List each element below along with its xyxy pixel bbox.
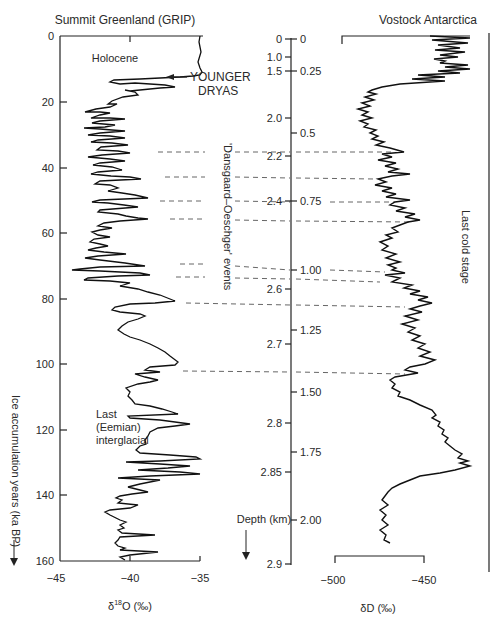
dansgaard-oeschger-label: 'Dansgaard–Oeschger' events [222, 143, 234, 291]
grip-title: Summit Greenland (GRIP) [55, 13, 196, 27]
svg-text:2.85: 2.85 [261, 466, 282, 478]
svg-text:1.25: 1.25 [300, 324, 321, 336]
svg-text:−450: −450 [412, 574, 437, 586]
grip-y-tick-labels: 0 20 40 60 80 100 120 140 160 [36, 30, 54, 567]
svg-text:1.50: 1.50 [300, 386, 321, 398]
svg-text:120: 120 [36, 424, 54, 436]
depth-label: Depth (km) [237, 513, 291, 525]
younger-dryas-label-line2: DRYAS [198, 84, 238, 98]
vostok-title: Vostock Antarctica [379, 13, 477, 27]
svg-text:140: 140 [36, 489, 54, 501]
svg-text:1.75: 1.75 [300, 446, 321, 458]
svg-text:80: 80 [42, 293, 54, 305]
grip-x-tick-labels: −45 −40 −35 [47, 572, 210, 584]
svg-text:2.00: 2.00 [300, 514, 321, 526]
svg-text:2.4: 2.4 [267, 195, 282, 207]
svg-text:0.75: 0.75 [300, 195, 321, 207]
svg-text:−40: −40 [121, 572, 140, 584]
grip-d18o-curve [72, 36, 202, 560]
svg-text:0: 0 [300, 33, 306, 45]
eemian-label-line1: Last [96, 408, 117, 420]
svg-text:0: 0 [48, 30, 54, 42]
svg-text:2.2: 2.2 [267, 150, 282, 162]
holocene-label: Holocene [92, 52, 138, 64]
svg-text:2.9: 2.9 [267, 558, 282, 570]
svg-text:100: 100 [36, 358, 54, 370]
svg-text:−45: −45 [47, 572, 66, 584]
svg-text:0: 0 [276, 33, 282, 45]
eemian-label-line3: interglacial [96, 434, 149, 446]
svg-text:2.7: 2.7 [267, 338, 282, 350]
svg-text:1.0: 1.0 [267, 51, 282, 63]
svg-text:1.5: 1.5 [267, 65, 282, 77]
svg-text:2.8: 2.8 [267, 417, 282, 429]
svg-text:40: 40 [42, 162, 54, 174]
svg-text:0.25: 0.25 [300, 65, 321, 77]
depth-axis [285, 38, 297, 565]
svg-text:−500: −500 [321, 574, 346, 586]
ice-core-figure: Summit Greenland (GRIP) Vostock Antarcti… [0, 0, 504, 625]
younger-dryas-label-line1: YOUNGER [190, 70, 251, 84]
younger-dryas-arrow-icon [166, 74, 187, 80]
svg-text:60: 60 [42, 227, 54, 239]
eemian-label-line2: (Eemian) [96, 421, 141, 433]
depth-arrow-icon [242, 530, 250, 560]
svg-text:−35: −35 [191, 572, 210, 584]
svg-text:2.6: 2.6 [267, 283, 282, 295]
correlation-dashed-lines [158, 152, 410, 374]
grip-x-label: δ18O (‰) [108, 599, 152, 612]
svg-text:2.0: 2.0 [267, 112, 282, 124]
depth-axis-labels: 0 1.0 1.5 2.0 2.2 2.4 2.6 2.7 2.8 2.85 2… [261, 33, 282, 570]
last-cold-stage-label: Last cold stage [460, 210, 472, 284]
svg-text:160: 160 [36, 555, 54, 567]
grip-axes [60, 36, 203, 561]
vostok-x-label: δD (‰) [360, 602, 395, 614]
age-axis-label: Ice accumulation years (ka BP) [10, 395, 22, 547]
vostok-x-tick-labels: −500 −450 [321, 574, 437, 586]
vostok-dd-curve [358, 36, 470, 543]
svg-text:1.00: 1.00 [300, 264, 321, 276]
svg-text:0.5: 0.5 [300, 127, 315, 139]
svg-text:20: 20 [42, 96, 54, 108]
vostok-axes [335, 33, 489, 572]
